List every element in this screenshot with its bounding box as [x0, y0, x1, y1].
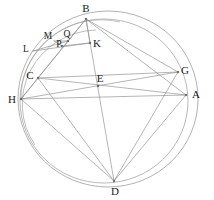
- dot-K: [89, 42, 91, 44]
- dot-Q: [67, 40, 69, 42]
- point-label-M: M: [44, 32, 52, 42]
- geometry-canvas: [0, 0, 214, 200]
- point-label-L: L: [23, 45, 29, 55]
- point-label-H: H: [8, 94, 16, 105]
- point-label-A: A: [192, 89, 200, 100]
- point-label-P: P: [56, 40, 61, 50]
- dot-B: [85, 18, 87, 20]
- geometry-figure: B M Q P K L C E G H A D: [0, 0, 214, 200]
- point-label-G: G: [181, 65, 189, 76]
- dot-H: [20, 98, 22, 100]
- dot-C: [37, 77, 39, 79]
- segment-A-D: [114, 95, 186, 181]
- segment-H-A: [21, 95, 186, 99]
- point-label-B: B: [82, 3, 89, 14]
- point-label-E: E: [97, 73, 104, 84]
- segment-H-D: [21, 99, 114, 181]
- dot-A: [185, 94, 187, 96]
- dot-D: [113, 180, 115, 182]
- point-label-D: D: [111, 186, 119, 197]
- chords-group: [21, 19, 186, 181]
- dot-G: [177, 71, 179, 73]
- point-label-Q: Q: [64, 30, 71, 40]
- segment-C-G: [38, 72, 178, 78]
- point-label-K: K: [93, 38, 101, 49]
- inner-circle: [20, 19, 188, 183]
- dot-E: [97, 85, 99, 87]
- point-label-C: C: [26, 70, 33, 81]
